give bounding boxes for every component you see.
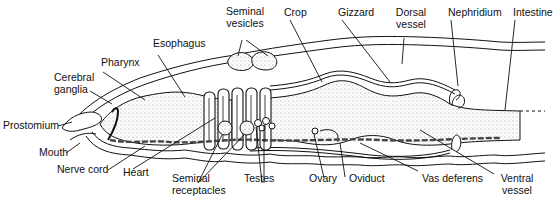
label-nerve-cord: Nerve cord <box>57 163 108 175</box>
ovary <box>312 128 318 134</box>
nephridium-shape <box>449 90 464 108</box>
label-pharynx: Pharynx <box>101 56 140 68</box>
label-seminal-receptacles-line1: Seminal <box>172 172 210 184</box>
earthworm-anatomy-diagram: Prostomium Mouth Cerebral ganglia Pharyn… <box>0 0 560 202</box>
label-crop: Crop <box>284 6 307 18</box>
label-oviduct: Oviduct <box>349 172 385 184</box>
label-dorsal-vessel-line2: vessel <box>392 18 430 30</box>
label-nephridium: Nephridium <box>448 6 502 18</box>
label-seminal-vesicles-line1: Seminal <box>220 5 270 17</box>
seminal-receptacle-1 <box>218 121 232 135</box>
label-seminal-receptacles-line2: receptacles <box>172 184 226 196</box>
label-testes: Testes <box>244 172 274 184</box>
label-ventral-vessel-line1: Ventral <box>495 172 539 184</box>
label-cerebral-ganglia-line1: Cerebral <box>54 71 94 83</box>
seminal-vesicles <box>228 52 277 71</box>
mouth-lip <box>70 133 96 140</box>
seminal-receptacle-2 <box>240 121 254 135</box>
label-intestine: Intestine <box>513 6 553 18</box>
label-prostomium: Prostomium <box>3 119 59 131</box>
gut-shape <box>270 81 520 145</box>
label-ovary: Ovary <box>309 172 337 184</box>
label-heart: Heart <box>123 166 149 178</box>
label-mouth: Mouth <box>39 146 68 158</box>
label-cerebral-ganglia-line2: ganglia <box>54 83 88 95</box>
prostomium-shape <box>62 112 102 131</box>
label-gizzard: Gizzard <box>338 6 374 18</box>
label-esophagus: Esophagus <box>153 37 206 49</box>
label-ventral-vessel-line2: vessel <box>495 184 539 196</box>
label-dorsal-vessel-line1: Dorsal <box>392 6 430 18</box>
label-seminal-vesicles-line2: vesicles <box>220 17 270 29</box>
label-vas-deferens: Vas deferens <box>422 172 483 184</box>
